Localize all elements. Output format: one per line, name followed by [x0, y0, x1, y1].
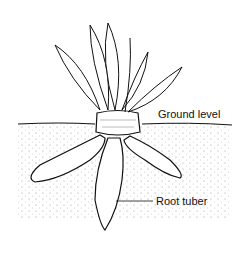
plant-root-tuber-diagram: Ground level Root tuber — [0, 0, 243, 255]
label-root-tuber: Root tuber — [156, 195, 207, 207]
leader-line — [0, 0, 243, 255]
